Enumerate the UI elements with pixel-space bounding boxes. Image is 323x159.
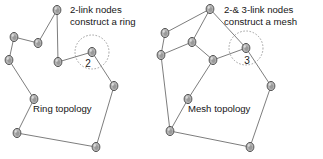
node-specular	[208, 6, 210, 9]
mesh-topology-caption: Mesh topology	[188, 103, 251, 114]
mesh-node	[188, 37, 196, 46]
ring-edge	[38, 10, 57, 43]
ring-degree-label: 2	[85, 58, 91, 69]
ring-callout-line-2: construct a ring	[70, 16, 136, 27]
mesh-node	[166, 126, 174, 135]
ring-edge	[17, 133, 96, 147]
mesh-node	[209, 55, 217, 64]
node-specular	[12, 34, 14, 37]
mesh-node	[161, 28, 169, 37]
mesh-edge	[250, 86, 271, 147]
mesh-edge	[188, 60, 213, 99]
mesh-node	[157, 50, 165, 59]
node-specular	[244, 45, 246, 48]
mesh-node	[267, 81, 275, 90]
node-specular	[55, 7, 57, 10]
ring-topology-caption: Ring topology	[33, 103, 92, 114]
ring-node	[10, 32, 18, 41]
node-specular	[94, 144, 96, 147]
node-specular	[36, 40, 38, 43]
ring-edges-group	[9, 10, 114, 147]
ring-node	[13, 128, 21, 137]
node-specular	[90, 49, 92, 52]
node-specular	[186, 96, 188, 99]
mesh-edge	[213, 48, 246, 60]
node-specular	[159, 52, 161, 55]
ring-callout-line-1: 2-link nodes	[70, 4, 122, 15]
mesh-edge	[161, 55, 170, 131]
node-specular	[248, 144, 250, 147]
mesh-edge	[170, 131, 250, 147]
mesh-edge	[246, 48, 271, 86]
node-specular	[56, 59, 58, 62]
mesh-node	[246, 142, 254, 151]
mesh-edge	[161, 42, 192, 55]
mesh-edges-group	[161, 9, 271, 147]
mesh-node	[206, 4, 214, 13]
ring-edge	[17, 99, 34, 133]
mesh-degree-label: 3	[244, 55, 250, 66]
topology-diagram-svg: 2 3 2-link nodes construct a ring 2-& 3-…	[0, 0, 323, 159]
node-specular	[168, 128, 170, 131]
ring-edge	[96, 86, 114, 147]
ring-edge	[9, 60, 34, 99]
node-specular	[32, 96, 34, 99]
diagram-canvas: 2 3 2-link nodes construct a ring 2-& 3-…	[0, 0, 323, 159]
node-specular	[211, 57, 213, 60]
node-specular	[112, 83, 114, 86]
ring-node	[5, 55, 13, 64]
mesh-callout-line-2: construct a mesh	[224, 16, 297, 27]
mesh-edge	[170, 99, 188, 131]
ring-edge	[57, 10, 58, 62]
ring-node	[34, 38, 42, 47]
node-specular	[163, 30, 165, 33]
ring-node	[92, 142, 100, 151]
ring-node	[53, 5, 61, 14]
node-specular	[15, 130, 17, 133]
mesh-node	[242, 43, 250, 52]
ring-node	[88, 47, 96, 56]
node-specular	[7, 57, 9, 60]
ring-node	[110, 81, 118, 90]
mesh-callout-line-1: 2-& 3-link nodes	[224, 4, 294, 15]
node-specular	[190, 39, 192, 42]
ring-node	[54, 57, 62, 66]
node-specular	[269, 83, 271, 86]
